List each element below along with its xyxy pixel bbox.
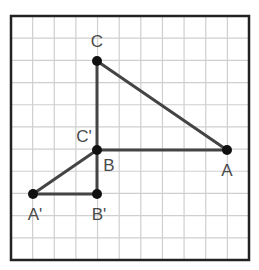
point-B-prime [92, 189, 102, 199]
grid-lines [11, 16, 249, 260]
label-C: C [91, 32, 103, 51]
grid-diagram: ABCA'B'C' [0, 0, 259, 270]
label-B: B [103, 156, 114, 175]
grid-border [11, 16, 249, 260]
point-A [222, 145, 232, 155]
label-B-prime: B' [92, 205, 107, 224]
point-A-prime [28, 189, 38, 199]
point-B [92, 145, 102, 155]
label-A-prime: A' [28, 205, 43, 224]
segment-CprimeAprime [33, 150, 97, 194]
label-A: A [221, 161, 233, 180]
point-C [92, 56, 102, 66]
label-C-prime: C' [76, 127, 92, 146]
